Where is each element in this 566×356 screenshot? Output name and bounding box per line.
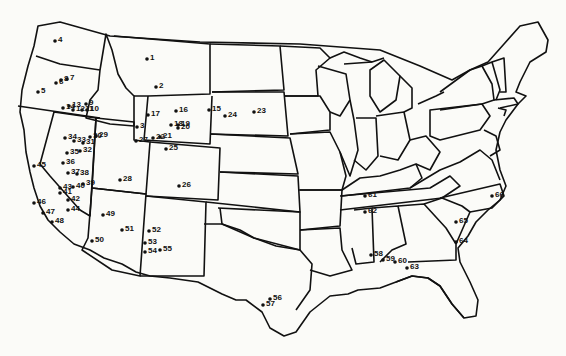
map-point: 64 [454,236,468,245]
map-point: 63 [405,262,419,271]
map-point: 8 [59,74,69,83]
point-label: 15 [212,104,221,113]
point-marker [177,184,181,188]
point-label: 52 [152,225,161,234]
point-marker [134,139,138,143]
point-label: 26 [182,180,191,189]
point-label: 54 [148,246,157,255]
point-label: 17 [151,109,160,118]
point-label: 16 [179,105,188,114]
point-marker [145,57,149,61]
point-marker [120,228,124,232]
map-point: 27 [134,135,148,144]
point-label: 39 [86,178,95,187]
map-point: 45 [32,160,46,169]
map-point: 23 [252,106,266,115]
point-marker [363,194,367,198]
point-marker [369,253,373,257]
point-marker [75,172,79,176]
map-point: 66 [490,190,504,199]
map-point: 47 [41,207,55,216]
point-marker [147,229,151,233]
map-point: 15 [207,104,221,113]
map-point: 17 [146,109,160,118]
point-label: 45 [37,160,46,169]
point-marker [174,109,178,113]
point-label: 20 [181,122,190,131]
point-marker [146,113,150,117]
data-points: 1234567891011121314151617181920212223242… [32,35,504,308]
map-point: 35 [65,147,79,156]
point-marker [207,108,211,112]
point-label: 65 [459,216,468,225]
point-label: 57 [266,299,275,308]
map-point: 3 [135,121,145,130]
point-marker [490,194,494,198]
point-marker [158,248,162,252]
map-point: 58 [369,249,383,258]
point-label: 14 [66,102,75,111]
map-point: 60 [393,256,407,265]
point-label: 22 [156,132,165,141]
map-point: 51 [120,224,134,233]
point-marker [454,240,458,244]
map-point: 6 [54,77,64,86]
point-label: 46 [37,197,46,206]
map-point: 25 [164,143,178,152]
point-marker [54,81,58,85]
point-marker [261,303,265,307]
point-label: 24 [228,110,237,119]
map-point: 57 [261,299,275,308]
point-label: 44 [71,204,80,213]
map-point: 36 [61,157,75,166]
point-label: 51 [125,224,134,233]
point-label: 43 [63,182,72,191]
point-label: 61 [368,190,377,199]
point-marker [454,220,458,224]
map-point: 61 [363,190,377,199]
point-marker [154,85,158,89]
map-point: 2 [154,81,164,90]
map-point: 65 [454,216,468,225]
point-label: 36 [66,157,75,166]
point-label: 1 [150,53,155,62]
point-marker [90,239,94,243]
point-marker [393,260,397,264]
point-label: 34 [68,132,77,141]
point-marker [58,191,62,195]
point-label: 8 [64,74,69,83]
point-marker [32,201,36,205]
point-label: 23 [257,106,266,115]
point-label: 60 [398,256,407,265]
point-label: 38 [80,168,89,177]
point-marker [66,198,70,202]
point-label: 33 [77,135,86,144]
point-label: 3 [140,121,145,130]
map-point: 32 [78,145,92,154]
point-label: 49 [106,209,115,218]
point-marker [66,171,70,175]
point-label: 63 [410,262,419,271]
point-label: 64 [459,236,468,245]
map-point: 34 [63,132,77,141]
point-label: 42 [71,194,80,203]
point-marker [66,208,70,212]
map-point: 22 [151,132,165,141]
point-label: 2 [159,81,164,90]
point-label: 50 [95,235,104,244]
map-point: 16 [174,105,188,114]
us-map: 1234567891011121314151617181920212223242… [0,0,566,356]
point-label: 66 [495,190,504,199]
point-label: 53 [148,237,157,246]
point-marker [118,178,122,182]
map-point: 14 [61,102,75,111]
point-label: 27 [139,135,148,144]
point-marker [135,125,139,129]
point-label: 35 [70,147,79,156]
map-point: 28 [118,174,132,183]
point-marker [381,258,385,262]
point-label: 47 [46,207,55,216]
point-label: 40 [76,181,85,190]
map-point: 24 [223,110,237,119]
point-marker [61,106,65,110]
